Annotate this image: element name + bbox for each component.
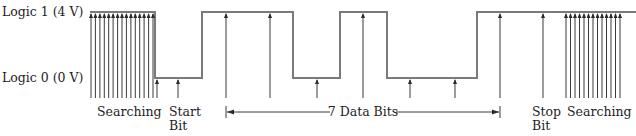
logic-low-label: Logic 0 (0 V) — [2, 70, 83, 85]
logic-high-label: Logic 1 (4 V) — [2, 4, 83, 19]
data-bit-sample-arrows — [226, 14, 500, 98]
searching-left-sample-arrows — [91, 14, 153, 98]
start-bit-sample-arrows — [157, 80, 178, 98]
start-bit-label-line2: Bit — [169, 118, 187, 133]
serial-timing-diagram: Logic 1 (4 V) Logic 0 (0 V) 7 Data Bits … — [0, 0, 636, 136]
start-bit-label-line1: Start — [169, 104, 201, 119]
data-bits-label: 7 Data Bits — [328, 104, 398, 119]
searching-right-sample-arrows — [566, 14, 620, 98]
data-bits-dimension: 7 Data Bits — [226, 104, 500, 119]
searching-right-label: Searching — [567, 104, 632, 119]
stop-bit-label-line2: Bit — [532, 118, 550, 133]
stop-bit-label-line1: Stop — [532, 104, 561, 119]
searching-left-label: Searching — [97, 104, 162, 119]
